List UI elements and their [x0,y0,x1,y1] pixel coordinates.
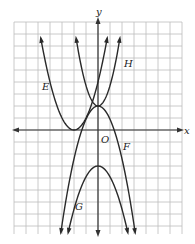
y-axis-up-arrow-icon [96,17,101,24]
y-axis [96,17,101,237]
x-axis-right-arrow-icon [177,128,184,133]
origin-label: O [101,134,109,145]
arrowhead-icon [39,36,44,43]
y-axis-label: y [95,6,102,17]
x-axis-label: x [184,125,190,136]
curve-label-e: E [41,81,50,92]
curve-label-h: H [123,58,133,69]
arrowhead-icon [117,36,122,43]
curve-label-f: F [122,141,131,152]
arrowhead-icon [104,36,109,43]
arrowhead-icon [75,36,80,43]
y-axis-down-arrow-icon [96,230,101,237]
arrowhead-icon [59,228,64,235]
coordinate-plane: y x O E H F G [0,0,195,244]
arrowhead-icon [132,228,137,235]
x-axis-left-arrow-icon [12,128,19,133]
arrowhead-icon [125,228,129,235]
curve-label-g: G [75,201,83,212]
arrowhead-icon [67,228,71,235]
curves [41,39,135,232]
